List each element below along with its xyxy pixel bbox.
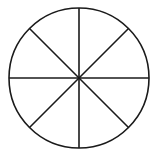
sector-dividers — [9, 8, 149, 148]
sector-diagram — [0, 0, 152, 157]
